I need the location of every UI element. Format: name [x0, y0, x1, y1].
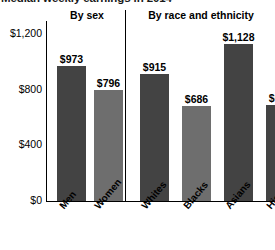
bar: [266, 105, 275, 201]
bar-value-label: $1,128: [213, 31, 264, 43]
y-axis-tick-label: $400: [19, 138, 42, 150]
panel-header-by-sex: By sex: [50, 9, 124, 21]
bar-value-label: $689: [255, 92, 275, 104]
y-axis-tick-label: $0: [30, 194, 42, 206]
panel-header-by-race-and-ethnicity: By race and ethnicity: [128, 9, 274, 21]
y-axis-tick-label: $800: [19, 83, 42, 95]
bar-chart-figure: Median weekly earnings in 2014 By sex By…: [0, 0, 275, 250]
bar-value-label: $915: [129, 61, 180, 73]
plot-area: $973$796$915$686$1,128$689: [47, 21, 273, 201]
bar: [224, 44, 253, 201]
bar-value-label: $796: [83, 77, 134, 89]
chart-title-clip: Median weekly earnings in 2014: [0, 0, 275, 7]
y-axis-tick-label: $1,200: [10, 27, 42, 39]
bar-value-label: $973: [46, 53, 97, 65]
bar: [57, 66, 86, 201]
bar-value-label: $686: [171, 93, 222, 105]
chart-title: Median weekly earnings in 2014: [1, 0, 172, 4]
